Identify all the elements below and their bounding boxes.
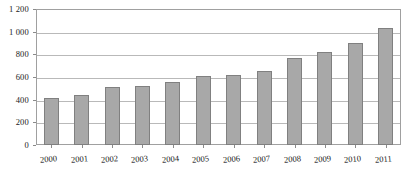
bar (196, 76, 211, 145)
x-tick-label: 2010 (344, 153, 362, 164)
y-tick-label: 1 000 (9, 27, 29, 37)
bar (44, 98, 59, 145)
x-tick-label: 2011 (374, 153, 391, 164)
bars-layer (36, 9, 401, 145)
y-tick-label: 400 (16, 95, 29, 105)
x-tick-mark (386, 145, 387, 148)
bar (135, 86, 150, 145)
x-tick-mark (355, 145, 356, 148)
bar (317, 52, 332, 145)
x-tick-label: 2001 (70, 153, 88, 164)
bar (165, 82, 180, 145)
bar (287, 58, 302, 145)
x-tick-mark (295, 145, 296, 148)
x-tick-label: 2006 (222, 153, 240, 164)
x-tick-mark (51, 145, 52, 148)
x-tick-label: 2003 (131, 153, 149, 164)
bar (257, 71, 272, 145)
bar (105, 87, 120, 145)
x-tick-label: 2007 (253, 153, 271, 164)
bar (74, 95, 89, 145)
x-tick-label: 2004 (161, 153, 179, 164)
x-tick-mark (264, 145, 265, 148)
x-axis: 2000200120022003200420052006200720082009… (36, 145, 401, 176)
bar (226, 75, 241, 145)
x-tick-label: 2000 (40, 153, 58, 164)
x-tick-label: 2009 (314, 153, 332, 164)
x-tick-mark (142, 145, 143, 148)
x-tick-label: 2002 (101, 153, 119, 164)
x-tick-mark (203, 145, 204, 148)
x-tick-label: 2005 (192, 153, 210, 164)
y-tick-label: 200 (16, 117, 29, 127)
bar (378, 28, 393, 145)
x-tick-mark (234, 145, 235, 148)
y-tick-label: 600 (16, 72, 29, 82)
y-tick-label: 800 (16, 49, 29, 59)
x-tick-mark (325, 145, 326, 148)
bar-chart: 02004006008001 0001 200 2000200120022003… (0, 0, 410, 176)
x-tick-mark (82, 145, 83, 148)
x-tick-mark (112, 145, 113, 148)
bar (348, 43, 363, 145)
y-tick-label: 0 (25, 140, 29, 150)
y-axis: 02004006008001 0001 200 (0, 0, 33, 176)
x-tick-mark (173, 145, 174, 148)
y-tick-label: 1 200 (9, 4, 29, 14)
x-tick-label: 2008 (283, 153, 301, 164)
